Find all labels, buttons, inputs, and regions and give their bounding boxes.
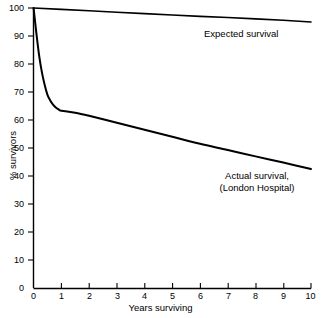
chart-plot-area (0, 0, 321, 318)
y-axis-title: % survivors (7, 120, 18, 192)
y-tick-label-70: 70 (0, 88, 24, 97)
y-axis-ticks (28, 8, 34, 260)
y-tick-label-0: 0 (0, 284, 24, 293)
x-tick-label-8: 8 (245, 292, 266, 301)
x-tick-label-5: 5 (162, 292, 183, 301)
x-tick-label-10: 10 (300, 292, 321, 301)
annotation-actual-survival-line2: (London Hospital) (196, 182, 318, 194)
y-tick-label-100: 100 (0, 4, 24, 13)
y-tick-label-20: 20 (0, 228, 24, 237)
series-line-expected-survival (34, 8, 311, 22)
x-tick-label-7: 7 (218, 292, 239, 301)
x-tick-label-3: 3 (107, 292, 128, 301)
annotation-actual-survival-line1: Actual survival, (196, 170, 318, 182)
x-axis-ticks (61, 283, 311, 289)
y-tick-label-80: 80 (0, 60, 24, 69)
survival-chart: 100 90 80 70 60 50 40 30 20 10 0 0 1 2 3… (0, 0, 321, 318)
x-tick-label-2: 2 (79, 292, 100, 301)
x-tick-label-1: 1 (51, 292, 72, 301)
x-tick-label-9: 9 (273, 292, 294, 301)
y-tick-label-90: 90 (0, 32, 24, 41)
x-tick-label-6: 6 (190, 292, 211, 301)
annotation-actual-survival: Actual survival, (London Hospital) (196, 170, 318, 194)
y-tick-label-30: 30 (0, 200, 24, 209)
y-tick-label-10: 10 (0, 256, 24, 265)
x-tick-label-4: 4 (134, 292, 155, 301)
x-tick-label-0: 0 (23, 292, 44, 301)
annotation-expected-survival: Expected survival (204, 28, 278, 40)
x-axis-title: Years surviving (0, 302, 321, 313)
